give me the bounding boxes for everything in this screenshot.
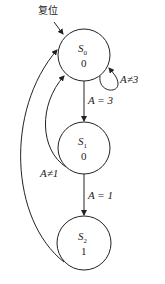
state-s1-name: S1 bbox=[78, 136, 87, 150]
label-s1-to-s0: A≠1 bbox=[40, 168, 58, 179]
reset-arrow bbox=[54, 22, 63, 34]
arrow-s1-to-s0 bbox=[45, 76, 66, 167]
state-s0-name: S0 bbox=[78, 43, 87, 57]
state-s0-output: 0 bbox=[81, 58, 87, 69]
state-s1-output: 0 bbox=[81, 151, 87, 162]
state-s2-name: S2 bbox=[78, 231, 87, 245]
state-s2-output: 1 bbox=[81, 246, 87, 257]
arrow-s0-self-loop bbox=[100, 68, 118, 90]
arrow-s2-to-s0 bbox=[21, 50, 64, 262]
label-s0-to-s1: A = 3 bbox=[88, 95, 113, 106]
state-s1-sub: 1 bbox=[84, 142, 88, 150]
state-s2-sub: 2 bbox=[84, 237, 88, 245]
label-s0-self: A≠3 bbox=[120, 74, 138, 85]
label-s1-to-s2: A = 1 bbox=[88, 190, 113, 201]
reset-label: 复位 bbox=[38, 6, 58, 16]
state-s0-sub: 0 bbox=[84, 49, 88, 57]
